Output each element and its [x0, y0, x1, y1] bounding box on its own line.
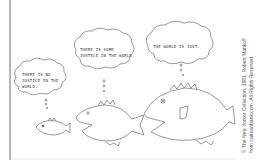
bubble-line: THERE IS SOME — [80, 47, 114, 52]
bubble-text-big-fish: THE WORLD IS JUST. — [153, 44, 200, 50]
bubble-line: JUSTICE IN THE — [22, 78, 59, 83]
bubble-line: JUSTICE IN THE WORLD. — [80, 53, 135, 58]
credit-line-2: from cartoonbank.com. All Rights Reserve… — [248, 38, 255, 153]
bubble-text-medium-fish: THERE IS SOME JUSTICE IN THE WORLD. — [80, 47, 135, 59]
big-fish — [145, 83, 236, 145]
thought-bubble-medium-fish — [74, 28, 134, 91]
cartoon-panel: THERE IS NO JUSTICE IN THE WORLD. THERE … — [0, 0, 260, 160]
medium-fish — [76, 100, 144, 146]
bubble-text-small-fish: THERE IS NO JUSTICE IN THE WORLD. — [22, 72, 59, 90]
credit-line-1: © The New Yorker Collection, 1981, Rober… — [241, 38, 248, 153]
bubble-line: WORLD. — [22, 84, 38, 89]
copyright-credit: © The New Yorker Collection, 1981, Rober… — [241, 38, 254, 153]
bubble-line: THERE IS NO — [22, 72, 51, 77]
small-fish — [36, 118, 70, 135]
bubble-line: THE WORLD IS JUST. — [153, 44, 200, 49]
